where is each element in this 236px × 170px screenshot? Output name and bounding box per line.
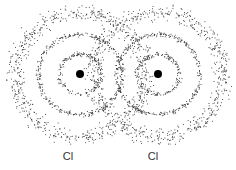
atom-label-left: Cl bbox=[63, 150, 73, 162]
electron-density-cloud bbox=[0, 0, 236, 170]
nucleus-0 bbox=[76, 70, 84, 78]
atom-label-right: Cl bbox=[148, 150, 158, 162]
nucleus-1 bbox=[154, 70, 162, 78]
